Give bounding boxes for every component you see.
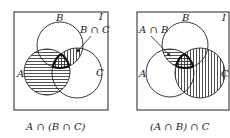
label-universe: I — [221, 12, 227, 23]
label-a: A — [138, 68, 146, 79]
label-a: A — [16, 68, 24, 79]
caption: (A ∩ B) ∩ C — [150, 121, 210, 132]
label-b: B — [181, 12, 189, 23]
venn-right: B I A ∩ B A C (A ∩ B) ∩ C — [137, 12, 229, 132]
callout-arrow — [77, 36, 91, 52]
label-b: B — [55, 12, 63, 23]
label-c: C — [96, 67, 104, 78]
callout-label: B ∩ C — [79, 24, 110, 35]
venn-diagrams: B I B ∩ C A C A ∩ (B ∩ C) B I A ∩ B A C … — [0, 0, 230, 138]
label-c: C — [221, 68, 229, 79]
caption: A ∩ (B ∩ C) — [25, 121, 86, 132]
label-universe: I — [98, 11, 104, 22]
venn-left: B I B ∩ C A C A ∩ (B ∩ C) — [14, 11, 110, 132]
callout-label: A ∩ B — [138, 24, 168, 35]
callout-arrow — [151, 36, 170, 56]
